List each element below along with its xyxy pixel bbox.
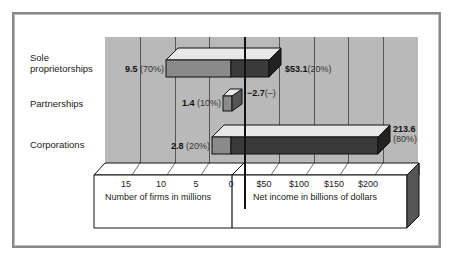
tick-5: 5 (193, 179, 198, 189)
category-label-line2: proprietorships (30, 63, 93, 74)
zero-axis (244, 37, 246, 209)
tick-150: $150 (324, 179, 344, 189)
tick-200: $200 (358, 179, 378, 189)
tick-15: 15 (121, 179, 131, 189)
tick-100: $100 (289, 179, 309, 189)
corporations-firms-label: 2.8 (20%) (171, 141, 210, 151)
right-axis-title: Net income in billions of dollars (253, 192, 377, 202)
tick-0: 0 (228, 179, 233, 189)
bar-sole-proprietorships (166, 48, 281, 77)
category-label-line1: Sole (30, 52, 93, 63)
category-corporations: Corporations (30, 139, 84, 150)
bars-and-base-svg (0, 0, 449, 261)
tick-50: $50 (256, 179, 271, 189)
left-axis-title: Number of firms in millions (105, 192, 211, 202)
bar-corporations (212, 125, 390, 154)
sole-income-label: $53.1(20%) (285, 64, 332, 74)
bar-partnerships (223, 89, 242, 111)
partnerships-income-label: −2.7(–) (247, 88, 276, 98)
sole-firms-label: 9.5 (70%) (125, 64, 164, 74)
corporations-income-label: 213.6(80%) (393, 124, 417, 144)
category-partnerships: Partnerships (30, 98, 83, 109)
tick-10: 10 (156, 179, 166, 189)
partnerships-firms-label: 1.4 (10%) (182, 98, 221, 108)
category-sole-proprietorships: Sole proprietorships (30, 52, 93, 74)
